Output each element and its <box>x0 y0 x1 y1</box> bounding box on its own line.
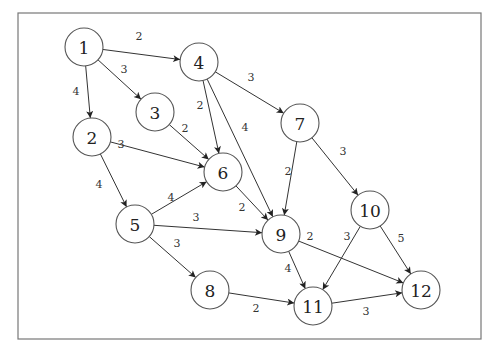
edge-1-to-3 <box>98 60 141 99</box>
edge-weight-4-9: 4 <box>242 121 249 134</box>
edge-4-to-6 <box>203 81 219 154</box>
edge-weight-5-9: 3 <box>193 211 200 224</box>
edge-weight-10-12: 5 <box>398 232 405 245</box>
edge-weight-2-6: 3 <box>118 138 125 151</box>
node-label: 11 <box>302 297 324 317</box>
edge-weight-10-11: 3 <box>344 230 351 243</box>
node-9: 9 <box>262 215 300 253</box>
node-label: 7 <box>295 114 306 134</box>
node-label: 8 <box>205 281 216 301</box>
edge-7-to-10 <box>312 138 358 195</box>
edge-3-to-6 <box>169 125 209 160</box>
edge-9-to-12 <box>299 241 404 283</box>
edge-weight-8-11: 2 <box>253 302 260 315</box>
edge-weight-4-7: 3 <box>248 71 255 84</box>
node-8: 8 <box>191 271 229 309</box>
edge-1-to-4 <box>103 49 180 59</box>
node-label: 10 <box>359 201 381 221</box>
edge-10-to-12 <box>380 226 411 274</box>
edge-5-to-9 <box>154 225 262 232</box>
edge-5-to-8 <box>149 237 195 278</box>
node-label: 1 <box>79 38 90 58</box>
edge-weight-9-11: 4 <box>285 262 292 275</box>
node-label: 9 <box>276 225 287 245</box>
node-11: 11 <box>294 287 332 325</box>
graph-diagram: 234324234232433423523 123456789101112 <box>0 0 494 356</box>
node-label: 2 <box>87 128 98 148</box>
node-6: 6 <box>204 153 242 191</box>
edge-weight-5-6: 4 <box>168 191 175 204</box>
edge-10-to-11 <box>323 226 361 289</box>
edge-weight-3-6: 2 <box>182 122 189 135</box>
edge-weight-1-4: 2 <box>136 30 143 43</box>
node-label: 6 <box>218 163 229 183</box>
edge-weight-2-5: 4 <box>96 178 103 191</box>
edge-weight-5-8: 3 <box>174 237 181 250</box>
edge-2-to-5 <box>100 154 126 207</box>
edge-weight-1-3: 3 <box>121 63 128 76</box>
edge-weight-9-12: 2 <box>307 230 314 243</box>
node-3: 3 <box>136 93 174 131</box>
edge-5-to-6 <box>151 182 206 215</box>
node-label: 5 <box>130 215 141 235</box>
node-1: 1 <box>65 28 103 66</box>
node-2: 2 <box>73 118 111 156</box>
node-12: 12 <box>402 271 440 309</box>
edge-weight-1-2: 4 <box>73 85 80 98</box>
edges-group <box>86 49 411 303</box>
node-label: 4 <box>194 53 205 73</box>
edge-7-to-9 <box>284 142 297 216</box>
node-label: 12 <box>410 281 432 301</box>
edge-weight-7-10: 3 <box>340 145 347 158</box>
node-5: 5 <box>116 205 154 243</box>
node-10: 10 <box>351 191 389 229</box>
node-4: 4 <box>180 43 218 81</box>
edge-8-to-11 <box>229 293 294 303</box>
edge-weight-6-9: 2 <box>239 201 246 214</box>
edge-1-to-2 <box>86 66 91 118</box>
edge-weight-4-6: 2 <box>197 99 204 112</box>
edge-11-to-12 <box>332 293 402 303</box>
node-label: 3 <box>150 103 161 123</box>
edge-4-to-9 <box>207 79 273 217</box>
edge-weight-11-12: 3 <box>363 305 370 318</box>
edge-weight-7-9: 2 <box>285 165 292 178</box>
node-7: 7 <box>281 104 319 142</box>
